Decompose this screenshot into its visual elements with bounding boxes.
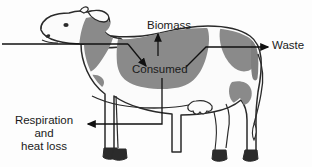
- label-waste: Waste: [272, 39, 304, 52]
- label-respiration-heat-loss: Respiration andheat loss: [4, 114, 84, 154]
- label-biomass: Biomass: [147, 19, 191, 32]
- label-respiration-line2: heat loss: [4, 140, 84, 153]
- label-consumed: Consumed: [132, 63, 188, 76]
- label-respiration-line1: Respiration and: [15, 114, 73, 139]
- cow-energy-flow-diagram: Biomass Consumed Waste Respiration andhe…: [0, 0, 312, 167]
